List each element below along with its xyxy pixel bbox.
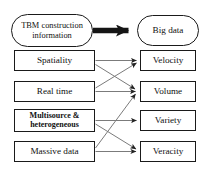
node-label-line1: TBM construction bbox=[21, 21, 83, 30]
node-label: Spatiality bbox=[37, 56, 72, 66]
node-multisource-heterogeneous[interactable]: Multisource & heterogeneous bbox=[14, 109, 95, 132]
node-label: Veracity bbox=[153, 147, 184, 157]
node-label: Massive data bbox=[30, 147, 78, 157]
node-label-line2: heterogeneous bbox=[30, 121, 80, 130]
edge-multisource-to-veracity bbox=[96, 124, 137, 149]
node-volume[interactable]: Volume bbox=[140, 81, 196, 102]
node-label: Real time bbox=[37, 87, 72, 97]
node-label: Big data bbox=[153, 26, 184, 36]
node-variety[interactable]: Variety bbox=[140, 110, 196, 131]
node-label: Volume bbox=[154, 87, 182, 97]
node-label: Velocity bbox=[153, 56, 184, 66]
node-label: Variety bbox=[155, 116, 182, 126]
node-velocity[interactable]: Velocity bbox=[140, 50, 196, 71]
edge-massive-data-to-volume bbox=[96, 94, 136, 148]
edge-spatiality-to-volume bbox=[96, 65, 136, 90]
edge-real-time-to-velocity bbox=[96, 63, 137, 88]
node-spatiality[interactable]: Spatiality bbox=[14, 50, 95, 71]
node-veracity[interactable]: Veracity bbox=[140, 141, 196, 162]
diagram-canvas: TBM construction information Big data Sp… bbox=[0, 0, 212, 177]
node-label-line2: information bbox=[21, 31, 83, 40]
node-massive-data[interactable]: Massive data bbox=[14, 141, 95, 162]
node-real-time[interactable]: Real time bbox=[14, 81, 95, 102]
node-tbm-construction-information[interactable]: TBM construction information bbox=[11, 14, 93, 47]
node-big-data[interactable]: Big data bbox=[137, 15, 199, 46]
